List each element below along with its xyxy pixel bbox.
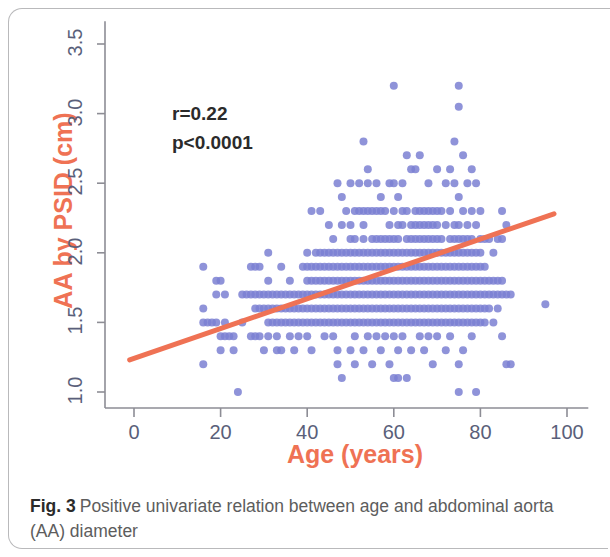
data-point xyxy=(468,332,476,340)
data-point xyxy=(321,332,329,340)
data-point xyxy=(455,103,463,111)
data-point xyxy=(442,221,450,229)
data-point xyxy=(372,179,380,187)
data-point xyxy=(359,346,367,354)
data-point xyxy=(424,179,432,187)
x-tick-label: 40 xyxy=(285,421,329,444)
data-point xyxy=(217,277,225,285)
data-point xyxy=(217,346,225,354)
data-point xyxy=(212,291,220,299)
data-point xyxy=(325,221,333,229)
data-point xyxy=(230,332,238,340)
data-point xyxy=(329,235,337,243)
data-point xyxy=(472,388,480,396)
data-point xyxy=(351,360,359,368)
data-point xyxy=(364,179,372,187)
data-point xyxy=(407,346,415,354)
data-point xyxy=(347,346,355,354)
data-point xyxy=(472,221,480,229)
data-point xyxy=(481,318,489,326)
caption-label: Fig. 3 xyxy=(30,496,76,516)
data-point xyxy=(351,235,359,243)
data-point xyxy=(273,332,281,340)
data-point xyxy=(498,277,506,285)
data-point xyxy=(468,165,476,173)
data-point xyxy=(303,332,311,340)
data-point xyxy=(455,221,463,229)
data-point xyxy=(394,235,402,243)
data-point xyxy=(308,346,316,354)
data-point xyxy=(433,332,441,340)
data-point xyxy=(385,360,393,368)
data-point xyxy=(450,137,458,145)
data-point xyxy=(295,332,303,340)
data-point xyxy=(234,388,242,396)
data-point xyxy=(455,82,463,90)
data-point xyxy=(394,374,402,382)
data-point xyxy=(359,235,367,243)
x-tick-label: 100 xyxy=(545,421,589,444)
data-point xyxy=(260,346,268,354)
data-point xyxy=(351,332,359,340)
data-point xyxy=(256,263,264,271)
data-point xyxy=(372,332,380,340)
data-point xyxy=(455,193,463,201)
data-point xyxy=(212,318,220,326)
data-point xyxy=(334,346,342,354)
data-point xyxy=(429,360,437,368)
data-point xyxy=(385,221,393,229)
data-point xyxy=(433,221,441,229)
data-point xyxy=(468,207,476,215)
data-point xyxy=(199,304,207,312)
caption-text: Positive univariate relation between age… xyxy=(30,496,554,541)
data-point xyxy=(450,179,458,187)
data-point xyxy=(416,151,424,159)
data-point xyxy=(455,388,463,396)
data-point xyxy=(390,332,398,340)
data-point xyxy=(347,221,355,229)
data-point xyxy=(264,332,272,340)
data-point xyxy=(485,304,493,312)
data-point xyxy=(338,221,346,229)
data-point xyxy=(286,332,294,340)
data-point xyxy=(338,374,346,382)
data-point xyxy=(394,346,402,354)
data-point xyxy=(446,332,454,340)
data-point xyxy=(390,179,398,187)
x-tick-label: 0 xyxy=(112,421,156,444)
data-point xyxy=(398,179,406,187)
y-tick-label: 1.0 xyxy=(64,369,87,413)
data-point xyxy=(498,207,506,215)
x-tick-label: 60 xyxy=(372,421,416,444)
data-point xyxy=(277,346,285,354)
data-point xyxy=(403,374,411,382)
data-point xyxy=(359,137,367,145)
data-point xyxy=(256,332,264,340)
data-point xyxy=(416,332,424,340)
data-point xyxy=(368,360,376,368)
data-point xyxy=(334,360,342,368)
data-point xyxy=(390,207,398,215)
data-point xyxy=(489,249,497,257)
data-point xyxy=(489,318,497,326)
data-point xyxy=(411,165,419,173)
tick-marks xyxy=(97,44,567,417)
data-point xyxy=(329,332,337,340)
data-point xyxy=(303,249,311,257)
correlation-value: r=0.22 xyxy=(172,100,253,129)
data-point xyxy=(446,165,454,173)
data-point xyxy=(199,360,207,368)
data-point xyxy=(316,207,324,215)
data-point xyxy=(476,249,484,257)
data-point xyxy=(442,179,450,187)
data-point xyxy=(334,179,342,187)
data-point xyxy=(398,332,406,340)
y-tick-label: 2.5 xyxy=(64,160,87,204)
pvalue: p<0.0001 xyxy=(172,129,253,158)
data-point xyxy=(420,346,428,354)
figure-page: AA by PSID (cm) Age (years) 1.01.52.02.5… xyxy=(0,0,610,557)
figure-caption: Fig. 3Positive univariate relation betwe… xyxy=(30,494,585,544)
data-point xyxy=(472,179,480,187)
y-tick-label: 3.5 xyxy=(64,21,87,65)
data-point xyxy=(308,207,316,215)
